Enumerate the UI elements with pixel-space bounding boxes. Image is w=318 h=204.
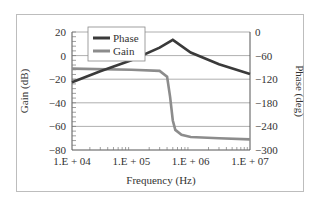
svg-text:1.E + 04: 1.E + 04 — [53, 155, 91, 167]
svg-text:1.E + 05: 1.E + 05 — [112, 155, 150, 167]
svg-text:−40: −40 — [49, 97, 67, 109]
x-axis-label: Frequency (Hz) — [126, 174, 196, 187]
svg-text:−180: −180 — [255, 97, 278, 109]
svg-text:20: 20 — [55, 26, 67, 38]
svg-text:−60: −60 — [255, 50, 273, 62]
y-tick-labels-left: 20 0 −20 −40 −60 −80 — [49, 26, 67, 156]
y-axis-label-right: Phase (deg) — [293, 65, 306, 117]
legend-label-gain: Gain — [113, 45, 135, 57]
svg-text:−120: −120 — [255, 73, 278, 85]
svg-text:−240: −240 — [255, 120, 278, 132]
y-axis-label-left: Gain (dB) — [18, 69, 31, 114]
y-tick-labels-right: 0 −60 −120 −180 −240 −300 — [255, 26, 278, 156]
svg-text:−20: −20 — [49, 73, 67, 85]
legend: Phase Gain — [88, 27, 145, 61]
svg-text:−60: −60 — [49, 120, 67, 132]
svg-text:0: 0 — [255, 26, 261, 38]
x-tick-labels: 1.E + 04 1.E + 05 1.E + 06 1.E + 07 — [53, 155, 269, 167]
svg-text:0: 0 — [61, 50, 67, 62]
bode-plot: 20 0 −20 −40 −60 −80 0 −60 −120 −180 −24… — [0, 0, 318, 204]
svg-text:1.E + 07: 1.E + 07 — [231, 155, 269, 167]
legend-label-phase: Phase — [113, 32, 139, 44]
svg-text:1.E + 06: 1.E + 06 — [172, 155, 210, 167]
